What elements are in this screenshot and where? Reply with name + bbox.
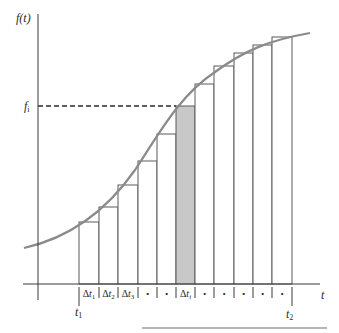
interval-label: Δt3 (122, 288, 135, 301)
bar (253, 45, 272, 284)
riemann-sum-diagram: Δt1Δt2Δt3••Δti••••• f(t) t fi t1 t2 (0, 0, 339, 333)
bar (99, 207, 118, 284)
bar (195, 84, 214, 284)
t2-label: t2 (286, 307, 293, 322)
interval-label: • (261, 289, 264, 299)
bar (118, 185, 138, 284)
x-axis-label: t (321, 288, 325, 302)
bar (157, 134, 176, 284)
y-axis-label: f(t) (16, 11, 31, 25)
bar (138, 161, 157, 284)
interval-label: Δt2 (102, 288, 115, 301)
interval-label: • (146, 289, 149, 299)
bar (234, 53, 253, 284)
interval-label: • (280, 289, 283, 299)
bar (79, 222, 99, 284)
interval-label: Δt1 (83, 288, 96, 301)
fi-label: fi (24, 99, 30, 114)
interval-label: Δti (180, 288, 191, 301)
interval-label: • (203, 289, 206, 299)
bar (214, 66, 234, 284)
rectangle-bars (79, 37, 292, 284)
bar (272, 37, 292, 284)
shaded-bar (176, 106, 195, 284)
t1-label: t1 (75, 305, 82, 320)
interval-label: • (165, 289, 168, 299)
interval-label: • (242, 289, 245, 299)
interval-label: • (222, 289, 225, 299)
